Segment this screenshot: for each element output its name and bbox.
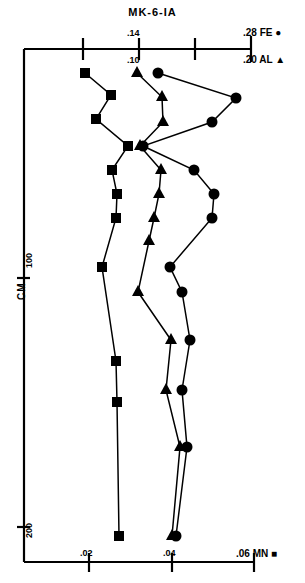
depth-tick-label-100: 100 bbox=[24, 253, 34, 268]
legend-fe-label: FE bbox=[260, 27, 273, 38]
legend-fe-value: .28 bbox=[243, 27, 257, 38]
legend-mn-label: MN bbox=[253, 548, 269, 559]
series-al bbox=[131, 66, 186, 540]
series-mn bbox=[80, 68, 133, 541]
legend-al-label: AL bbox=[259, 54, 272, 65]
bottom-axis-tick-04: .04 bbox=[163, 548, 176, 558]
legend-mn-value: .06 bbox=[236, 548, 250, 559]
depth-axis-label: CM bbox=[16, 282, 27, 300]
legend-fe: .28 FE ● bbox=[243, 27, 281, 38]
triangle-marker-icon: ▲ bbox=[275, 54, 285, 65]
chart-frame bbox=[24, 49, 254, 562]
chart-title: MK-6-IA bbox=[0, 6, 305, 18]
depth-profile-chart bbox=[0, 0, 305, 583]
bottom-axis-tick-02: .02 bbox=[80, 548, 93, 558]
legend-al: .20 AL ▲ bbox=[243, 54, 285, 65]
legend-al-value: .20 bbox=[243, 54, 257, 65]
series-fe bbox=[138, 68, 242, 542]
top-axis-fe-tick-mid: .14 bbox=[127, 28, 140, 38]
depth-tick-label-200: 200 bbox=[24, 523, 34, 538]
legend-mn: .06 MN ■ bbox=[236, 548, 277, 559]
square-marker-icon: ■ bbox=[271, 548, 277, 559]
top-axis-al-tick-mid: .10 bbox=[127, 55, 140, 65]
circle-marker-icon: ● bbox=[275, 27, 281, 38]
